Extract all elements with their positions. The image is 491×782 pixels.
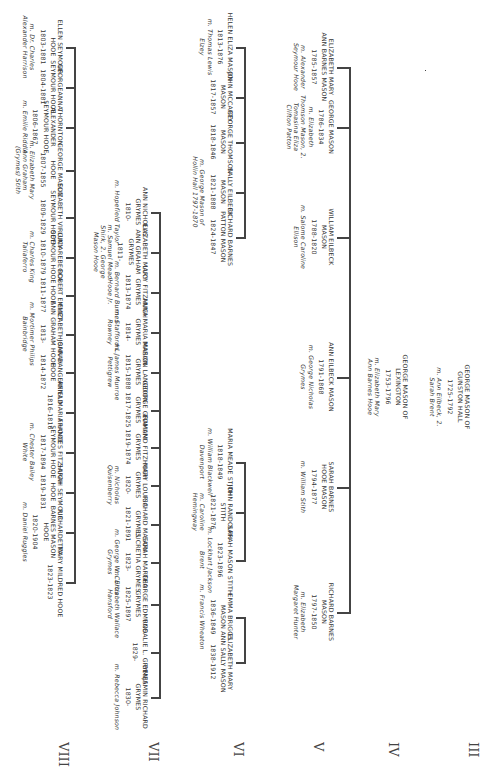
connector-line xyxy=(66,170,76,172)
person-dates: 1820-1904 xyxy=(32,496,39,568)
person-spouse: m. George Mason of Hollin Hall 1797-1870 xyxy=(192,156,206,228)
connector-line xyxy=(160,212,162,697)
person-node: Elizabeth Mary Ann Sally Mason1838-1912 xyxy=(209,626,234,698)
person-name: Richard Barnes Mason xyxy=(321,576,335,648)
connector-line xyxy=(66,334,76,336)
connector-line xyxy=(337,612,351,614)
person-name: George Mason of Lexington xyxy=(395,351,409,423)
person-dates: 1825-1897 xyxy=(124,568,131,640)
person-spouse: m. Elizabeth Mary Ann Barnes Hooe xyxy=(367,351,381,423)
person-spouse: m. Chester Bailey White xyxy=(22,416,36,488)
person-node: Ann Eilbeck Mason1791-1868m. George Nich… xyxy=(300,341,335,413)
person-dates: 1823-1823 xyxy=(47,546,54,618)
person-spouse: m. Daniel Ruggles xyxy=(22,496,29,568)
connector-line xyxy=(151,292,161,294)
connector-line xyxy=(151,332,161,334)
connector-line xyxy=(66,452,76,454)
person-spouse: m. Rebecca Johnson xyxy=(114,661,121,733)
person-node: Mary Mildred Hooe1823-1823 xyxy=(47,546,64,618)
generation-label: VI xyxy=(231,742,246,757)
connector-line xyxy=(151,524,161,526)
person-dates: 1797-1850 xyxy=(310,576,317,648)
connector-line xyxy=(236,617,246,619)
connector-line xyxy=(66,217,76,219)
person-spouse: m. William Stith xyxy=(300,451,307,523)
connector-line xyxy=(350,67,352,612)
generation-label: VII xyxy=(146,742,161,762)
generation-label: VIII xyxy=(56,742,71,767)
person-dates: 1814-1872 xyxy=(39,336,46,408)
connector-line xyxy=(236,97,246,99)
person-name: George Mason xyxy=(328,91,335,163)
person-dates: 1824-1847 xyxy=(209,201,216,273)
connector-line xyxy=(66,295,76,297)
connector-line xyxy=(66,492,76,494)
connector-line xyxy=(151,410,161,412)
person-node: Benjamin Richard Grymes1830-m. Rebecca J… xyxy=(114,661,149,733)
connector-line xyxy=(236,47,246,49)
connector-line xyxy=(66,582,76,584)
person-dates: 1794-1877 xyxy=(310,451,317,523)
person-dates: 1791-1868 xyxy=(318,341,325,413)
connector-line xyxy=(236,237,246,239)
connector-line xyxy=(337,127,351,129)
person-node: George Mason of Gunston Hall1725-1792m. … xyxy=(429,361,471,433)
connector-line xyxy=(337,237,351,239)
person-dates: 1786-1834 xyxy=(318,91,325,163)
person-spouse: m. Ann Eilbeck, 2. Sarah Brent xyxy=(429,361,443,433)
person-node: Richard Barnes Mason1797-1850m. Elizabet… xyxy=(293,576,335,648)
person-dates: 1830- xyxy=(124,661,131,733)
connector-line xyxy=(151,447,161,449)
connector-line xyxy=(245,462,247,560)
family-tree-chart: IIIIVVVIVIIVIIIGeorge Mason of Gunston H… xyxy=(0,0,491,782)
connector-line xyxy=(151,212,161,214)
connector-line xyxy=(236,192,246,194)
connector-line xyxy=(236,662,246,664)
person-node: Richard Barnes Patton Mason1824-1847 xyxy=(209,201,234,273)
person-dates: 1725-1792 xyxy=(446,361,453,433)
connector-line xyxy=(66,372,76,374)
connector-line xyxy=(236,560,246,562)
person-name: Richard Barnes Patton Mason xyxy=(220,201,234,273)
connector-line xyxy=(236,462,246,464)
connector-line xyxy=(66,47,76,49)
person-spouse: m. Nicholas Quisenberry xyxy=(107,449,121,521)
connector-line xyxy=(151,697,161,699)
person-name: George Mason of Gunston Hall xyxy=(457,361,471,433)
person-spouse: m. Elizabeth Wallace Hansford xyxy=(107,568,121,640)
person-dates: 1788-1820 xyxy=(310,201,317,273)
connector-line xyxy=(151,604,161,606)
person-spouse: m. Elizabeth Margaret Hunter xyxy=(293,576,307,648)
person-spouse: m. Mortimer Philips Bainbridge xyxy=(22,298,36,370)
connector-line xyxy=(151,252,161,254)
person-name: William Eilbeck Mason xyxy=(321,201,335,273)
person-spouse: m. Elizabeth Thomson Mason, 2. Tomasina … xyxy=(286,91,315,163)
generation-label: V xyxy=(311,742,326,751)
person-node: George Mason of Lexington1753-1796m. Eli… xyxy=(367,351,409,423)
connector-line xyxy=(66,532,76,534)
connector-line xyxy=(236,142,246,144)
generation-label: III xyxy=(466,742,481,757)
generation-label: IV xyxy=(386,742,401,757)
person-spouse: m. George Nicholas Grymes xyxy=(300,341,314,413)
person-name: Ann Eilbeck Mason xyxy=(328,341,335,413)
person-spouse: m. Francis Wheaton xyxy=(199,581,206,653)
person-dates: 1753-1796 xyxy=(384,351,391,423)
connector-line xyxy=(337,487,351,489)
person-spouse: m. James Munroe Pettigrew xyxy=(107,336,121,408)
connector-line xyxy=(151,485,161,487)
connector-line xyxy=(337,67,351,69)
person-dates: 1838-1912 xyxy=(209,626,216,698)
connector-line xyxy=(151,562,161,564)
person-spouse: m. Salome Caroline Ellison xyxy=(293,201,307,273)
person-name: Elizabeth Mary Ann Sally Mason xyxy=(220,626,234,698)
person-spouse: m. Elizabeth Mary Ann Graham (Grymes) St… xyxy=(15,134,37,206)
person-name: Sarah Barnes Hooe Mason xyxy=(321,451,335,523)
person-node: Sarah Barnes Hooe Mason1794-1877m. Willi… xyxy=(300,451,335,523)
person-spouse: m. Dr. Charles Alexander Harrison xyxy=(22,11,36,83)
person-node: William Eilbeck Mason1788-1820m. Salome … xyxy=(293,201,335,273)
connector-line xyxy=(151,652,161,654)
connector-line xyxy=(337,377,351,379)
person-name: Mary Mildred Hooe xyxy=(57,546,64,618)
connector-line xyxy=(425,70,426,71)
